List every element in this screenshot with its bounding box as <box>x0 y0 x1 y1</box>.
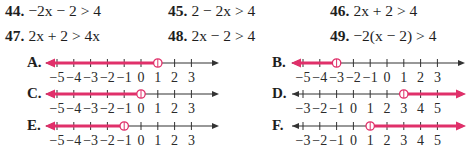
svg-text:−4: −4 <box>312 70 327 85</box>
svg-text:−1: −1 <box>363 70 378 85</box>
svg-text:2: 2 <box>171 133 178 148</box>
svg-text:−3: −3 <box>83 70 98 85</box>
problem-44: 44.−2x − 2 > 4 <box>5 2 101 20</box>
svg-text:3: 3 <box>188 70 195 85</box>
option-a-label: A. <box>27 54 42 71</box>
problem-number: 47. <box>5 27 24 44</box>
svg-text:3: 3 <box>434 70 441 85</box>
svg-text:0: 0 <box>138 101 145 116</box>
svg-text:−5: −5 <box>50 70 65 85</box>
svg-text:3: 3 <box>188 133 195 148</box>
svg-text:5: 5 <box>434 133 441 148</box>
problem-expression: 2x − 2 > 4 <box>191 27 255 44</box>
svg-text:−1: −1 <box>117 133 132 148</box>
svg-text:0: 0 <box>138 133 145 148</box>
svg-text:1: 1 <box>154 70 161 85</box>
svg-text:4: 4 <box>417 101 424 116</box>
svg-text:−5: −5 <box>296 70 311 85</box>
svg-text:0: 0 <box>138 70 145 85</box>
problem-number: 48. <box>168 27 187 44</box>
svg-text:1: 1 <box>154 133 161 148</box>
problem-expression: 2x + 2 > 4 <box>353 2 417 19</box>
svg-text:1: 1 <box>400 70 407 85</box>
problem-46: 46.2x + 2 > 4 <box>330 2 417 20</box>
svg-text:−3: −3 <box>296 133 311 148</box>
option-b-label: B. <box>272 54 286 71</box>
svg-text:−4: −4 <box>66 70 81 85</box>
number-line-d: −3−2−1012345 <box>290 86 470 116</box>
option-e-label: E. <box>27 117 41 134</box>
svg-text:3: 3 <box>400 101 407 116</box>
svg-text:−3: −3 <box>329 70 344 85</box>
svg-text:−2: −2 <box>346 70 361 85</box>
problem-48: 48.2x − 2 > 4 <box>168 27 255 45</box>
problem-number: 44. <box>5 2 24 19</box>
problem-49: 49.−2(x − 2) > 4 <box>330 27 436 45</box>
problem-number: 49. <box>330 27 349 44</box>
svg-text:2: 2 <box>417 70 424 85</box>
svg-text:−3: −3 <box>83 133 98 148</box>
svg-text:0: 0 <box>350 101 357 116</box>
problem-47: 47.2x + 2 > 4x <box>5 27 100 45</box>
problem-expression: −2x − 2 > 4 <box>28 2 101 19</box>
svg-text:−1: −1 <box>329 133 344 148</box>
svg-text:−3: −3 <box>83 101 98 116</box>
number-line-e: −5−4−3−2−10123 <box>44 118 224 148</box>
svg-text:−1: −1 <box>117 101 132 116</box>
problem-45: 45.2 − 2x > 4 <box>168 2 255 20</box>
svg-text:2: 2 <box>171 101 178 116</box>
number-line-a: −5−4−3−2−10123 <box>44 55 224 85</box>
svg-text:2: 2 <box>384 101 391 116</box>
svg-text:−4: −4 <box>66 101 81 116</box>
svg-text:−1: −1 <box>117 70 132 85</box>
option-f-label: F. <box>272 117 284 134</box>
problem-number: 46. <box>330 2 349 19</box>
problem-expression: −2(x − 2) > 4 <box>353 27 436 44</box>
svg-text:0: 0 <box>384 70 391 85</box>
option-d-label: D. <box>272 85 287 102</box>
problem-expression: 2x + 2 > 4x <box>28 27 100 44</box>
svg-text:−2: −2 <box>100 133 115 148</box>
svg-text:5: 5 <box>434 101 441 116</box>
number-line-c: −5−4−3−2−10123 <box>44 86 224 116</box>
svg-text:2: 2 <box>384 133 391 148</box>
svg-text:−5: −5 <box>50 101 65 116</box>
option-c-label: C. <box>27 85 42 102</box>
problem-number: 45. <box>168 2 187 19</box>
svg-text:2: 2 <box>171 70 178 85</box>
svg-text:3: 3 <box>188 101 195 116</box>
svg-text:−5: −5 <box>50 133 65 148</box>
svg-text:4: 4 <box>417 133 424 148</box>
svg-text:1: 1 <box>154 101 161 116</box>
svg-text:−3: −3 <box>296 101 311 116</box>
svg-text:−2: −2 <box>312 133 327 148</box>
svg-text:−1: −1 <box>329 101 344 116</box>
problem-expression: 2 − 2x > 4 <box>191 2 255 19</box>
svg-text:1: 1 <box>367 133 374 148</box>
svg-text:−2: −2 <box>100 70 115 85</box>
svg-text:−2: −2 <box>312 101 327 116</box>
number-line-f: −3−2−1012345 <box>290 118 470 148</box>
number-line-b: −5−4−3−2−10123 <box>290 55 470 85</box>
svg-text:1: 1 <box>367 101 374 116</box>
svg-text:0: 0 <box>350 133 357 148</box>
svg-text:−4: −4 <box>66 133 81 148</box>
svg-text:3: 3 <box>400 133 407 148</box>
svg-text:−2: −2 <box>100 101 115 116</box>
